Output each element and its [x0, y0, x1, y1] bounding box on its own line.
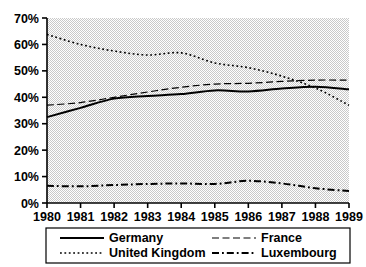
legend-label-germany: Germany	[109, 231, 163, 245]
legend-label-united-kingdom: United Kingdom	[109, 246, 206, 260]
x-tick-label: 1981	[67, 210, 95, 224]
legend-label-france: France	[261, 231, 302, 245]
x-tick-label: 1989	[335, 210, 363, 224]
x-tick-label: 1982	[100, 210, 128, 224]
x-tick-label: 1988	[302, 210, 330, 224]
y-tick-label: 50%	[14, 64, 39, 78]
x-tick-label: 1985	[201, 210, 229, 224]
x-tick-label: 1987	[268, 210, 296, 224]
legend-label-luxembourg: Luxembourg	[261, 246, 337, 260]
y-tick-label: 40%	[14, 91, 39, 105]
y-tick-label: 10%	[14, 170, 39, 184]
y-tick-label: 60%	[14, 38, 39, 52]
chart-canvas: 0%10%20%30%40%50%60%70% 1980198119821983…	[0, 0, 366, 267]
x-tick-label: 1986	[234, 210, 262, 224]
y-tick-label: 20%	[14, 144, 39, 158]
x-tick-label: 1983	[134, 210, 162, 224]
line-chart-figure: 0%10%20%30%40%50%60%70% 1980198119821983…	[0, 0, 366, 267]
y-tick-label: 0%	[21, 197, 39, 211]
y-tick-label: 30%	[14, 117, 39, 131]
x-tick-label: 1980	[33, 210, 61, 224]
x-tick-label: 1984	[167, 210, 195, 224]
plot-area-background	[47, 18, 349, 203]
y-tick-label: 70%	[14, 12, 39, 26]
